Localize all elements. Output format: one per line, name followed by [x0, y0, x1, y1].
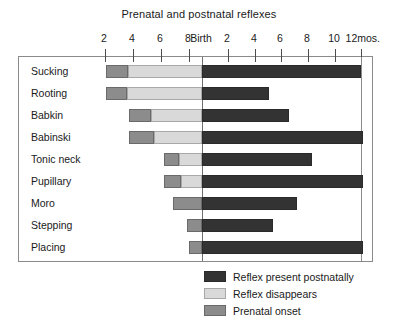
bar-segment-prenatal-onset: [164, 175, 181, 188]
bar-segment-reflex-present-postnatally: [202, 153, 312, 166]
legend-label-2: Prenatal onset: [233, 305, 301, 317]
chart-title: Prenatal and postnatal reflexes: [0, 8, 398, 20]
x-axis-tick-9: [335, 49, 336, 57]
reflex-row-label-4: Tonic neck: [31, 153, 81, 165]
x-axis-tick-label-8: 8: [304, 32, 310, 44]
prenatal-postnatal-reflexes-chart: Prenatal and postnatal reflexes 2468Birt…: [0, 0, 398, 325]
reflex-row-label-0: Sucking: [31, 65, 68, 77]
x-axis-tick-label-6: 4: [251, 32, 257, 44]
bar-segment-prenatal-onset: [129, 109, 151, 122]
x-axis-tick-1: [133, 49, 134, 57]
bar-segment-prenatal-onset: [189, 241, 202, 254]
bar-segment-reflex-present-postnatally: [202, 197, 297, 210]
x-axis-tick-label-0: 2: [101, 32, 107, 44]
legend-item-1: Reflex disappears: [204, 285, 394, 302]
reflex-row-label-7: Stepping: [31, 219, 72, 231]
bar-segment-reflex-present-postnatally: [202, 241, 363, 254]
reflex-row-label-1: Rooting: [31, 87, 67, 99]
bar-segment-reflex-disappears: [151, 109, 202, 122]
reflex-row-label-2: Babkin: [31, 109, 63, 121]
bar-segment-reflex-present-postnatally: [202, 65, 361, 78]
bar-segment-prenatal-onset: [129, 131, 154, 144]
reflex-row: Babinski: [19, 127, 372, 149]
x-axis-tick-6: [255, 49, 256, 57]
bar-segment-prenatal-onset: [187, 219, 202, 232]
bar-segment-reflex-disappears: [128, 65, 202, 78]
x-axis-tick-8: [308, 49, 309, 57]
bar-segment-reflex-present-postnatally: [202, 109, 289, 122]
reflex-row: Stepping: [19, 215, 372, 237]
bar-segment-reflex-present-postnatally: [202, 87, 269, 100]
x-axis-tick-10: [361, 49, 362, 57]
reflex-row-label-6: Moro: [31, 197, 55, 209]
reflex-row: Moro: [19, 193, 372, 215]
reflex-row: Babkin: [19, 105, 372, 127]
reflex-row-label-3: Babinski: [31, 131, 71, 143]
x-axis-tick-0: [105, 49, 106, 57]
reflex-row: Rooting: [19, 83, 372, 105]
reflex-row: Pupillary: [19, 171, 372, 193]
x-axis-tick-label-10: 12mos.: [346, 32, 380, 44]
bar-segment-prenatal-onset: [164, 153, 179, 166]
x-axis-tick-2: [161, 49, 162, 57]
x-axis-tick-label-5: 2: [224, 32, 230, 44]
x-axis-tick-3: [189, 49, 190, 57]
reflex-row: Sucking: [19, 61, 372, 83]
reflex-row-label-8: Placing: [31, 241, 65, 253]
bar-segment-reflex-disappears: [127, 87, 202, 100]
x-axis-tick-label-2: 6: [157, 32, 163, 44]
reflex-row: Tonic neck: [19, 149, 372, 171]
bar-segment-reflex-present-postnatally: [202, 175, 363, 188]
bar-segment-reflex-disappears: [154, 131, 202, 144]
x-axis-tick-label-4: Birth: [190, 32, 212, 44]
legend-label-0: Reflex present postnatally: [233, 271, 354, 283]
x-axis-tick-labels: 2468Birth24681012mos.: [0, 32, 398, 48]
reflex-row-label-5: Pupillary: [31, 175, 71, 187]
x-axis-tick-7: [281, 49, 282, 57]
bar-segment-reflex-disappears: [179, 153, 202, 166]
chart-legend: Reflex present postnatallyReflex disappe…: [204, 268, 394, 319]
legend-swatch-2: [204, 305, 226, 316]
x-axis-tick-label-7: 6: [277, 32, 283, 44]
bar-segment-reflex-present-postnatally: [202, 131, 363, 144]
legend-item-0: Reflex present postnatally: [204, 268, 394, 285]
x-axis-tick-5: [228, 49, 229, 57]
legend-swatch-0: [204, 271, 226, 282]
legend-label-1: Reflex disappears: [233, 288, 317, 300]
bar-segment-reflex-disappears: [181, 175, 202, 188]
plot-area: SuckingRootingBabkinBabinskiTonic neckPu…: [18, 56, 373, 262]
bar-segment-prenatal-onset: [106, 65, 128, 78]
bar-segment-reflex-present-postnatally: [202, 219, 273, 232]
legend-item-2: Prenatal onset: [204, 302, 394, 319]
legend-swatch-1: [204, 288, 226, 299]
x-axis-tick-label-1: 4: [129, 32, 135, 44]
bar-segment-prenatal-onset: [173, 197, 202, 210]
reflex-row: Placing: [19, 237, 372, 259]
bar-segment-prenatal-onset: [106, 87, 127, 100]
x-axis-tick-label-9: 10: [328, 32, 340, 44]
